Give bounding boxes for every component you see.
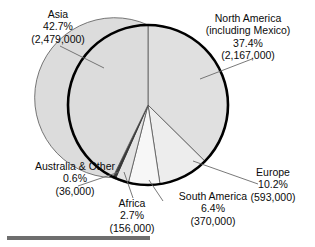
pie-label-north-america-percent: 37.4%	[186, 37, 310, 49]
pie-label-asia-name: Asia	[6, 8, 110, 20]
pie-label-north-america-subname: (including Mexico)	[186, 24, 310, 36]
pie-label-australia-other-value: (36,000)	[2, 185, 148, 197]
pie-label-europe-name: Europe	[236, 166, 310, 178]
pie-label-africa-percent: 2.7%	[80, 209, 184, 221]
pie-label-asia: Asia 42.7% (2,479,000)	[6, 8, 110, 45]
pie-label-north-america-name: North America	[186, 12, 310, 24]
pie-label-africa: Africa 2.7% (156,000)	[80, 197, 184, 234]
pie-label-asia-percent: 42.7%	[6, 20, 110, 32]
pie-label-australia-other: Australia & Other 0.6% (36,000)	[2, 160, 148, 197]
pie-label-australia-other-name: Australia & Other	[2, 160, 148, 172]
pie-label-africa-value: (156,000)	[80, 222, 184, 234]
bottom-divider-rule	[7, 236, 150, 240]
pie-label-asia-value: (2,479,000)	[6, 33, 110, 45]
pie-chart-figure: Asia 42.7% (2,479,000) North America (in…	[0, 0, 315, 247]
pie-label-north-america: North America (including Mexico) 37.4% (…	[186, 12, 310, 62]
pie-label-africa-name: Africa	[80, 197, 184, 209]
pie-label-north-america-value: (2,167,000)	[186, 49, 310, 61]
pie-label-europe-percent: 10.2%	[236, 178, 310, 190]
pie-label-australia-other-percent: 0.6%	[2, 172, 148, 184]
